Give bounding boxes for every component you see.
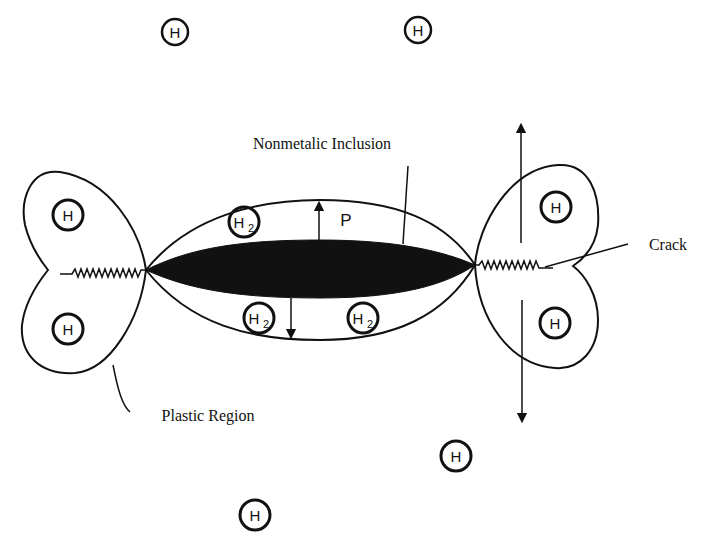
svg-text:H: H xyxy=(551,199,562,216)
free-hydrogen-atom: H xyxy=(405,17,431,43)
free-hydrogen-atom: H xyxy=(162,19,188,45)
plastic-zone-hydrogen-atom: H xyxy=(53,200,83,230)
svg-text:H: H xyxy=(451,448,462,465)
crack-label: Crack xyxy=(649,236,687,253)
plastic-region-right xyxy=(475,165,598,368)
crack-leader-line xyxy=(545,244,628,267)
molecular-hydrogen: H 2 xyxy=(244,303,274,333)
svg-text:2: 2 xyxy=(367,318,373,330)
nonmetallic-inclusion xyxy=(146,240,475,298)
plastic-zone-hydrogen-atom: H xyxy=(53,314,83,344)
svg-text:H: H xyxy=(234,214,245,231)
free-hydrogen-atom: H xyxy=(441,441,471,471)
plastic-zone-hydrogen-atom: H xyxy=(540,308,570,338)
crack-left xyxy=(60,269,146,277)
pressure-label: P xyxy=(340,211,351,230)
svg-text:H: H xyxy=(249,310,260,327)
hydrogen-embrittlement-diagram: H H H H Nonmetalic Inclusion P H 2 H 2 H… xyxy=(0,0,704,553)
svg-text:H: H xyxy=(170,24,181,41)
inclusion-leader-line xyxy=(403,166,408,244)
svg-text:H: H xyxy=(250,507,261,524)
svg-text:H: H xyxy=(550,315,561,332)
molecular-hydrogen: H 2 xyxy=(348,303,378,333)
crack-right xyxy=(475,261,553,269)
svg-text:H: H xyxy=(63,207,74,224)
inclusion-label: Nonmetalic Inclusion xyxy=(253,135,391,152)
svg-text:H: H xyxy=(353,310,364,327)
svg-text:2: 2 xyxy=(248,222,254,234)
plastic-region-leader-line xyxy=(113,365,130,412)
svg-text:H: H xyxy=(63,321,74,338)
plastic-region-label: Plastic Region xyxy=(162,407,255,425)
free-hydrogen-atom: H xyxy=(240,500,270,530)
svg-text:2: 2 xyxy=(263,318,269,330)
molecular-hydrogen: H 2 xyxy=(229,207,259,237)
svg-text:H: H xyxy=(413,22,424,39)
plastic-zone-hydrogen-atom: H xyxy=(541,192,571,222)
